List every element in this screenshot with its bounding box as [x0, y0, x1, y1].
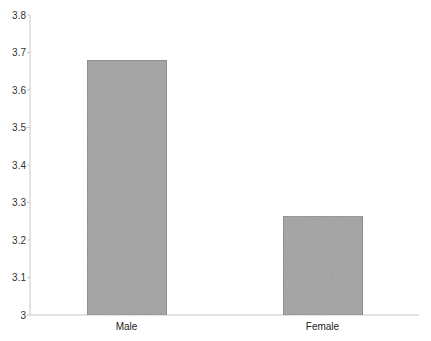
y-tick-label: 3.3	[12, 197, 26, 208]
y-axis: 33.13.23.33.43.53.63.73.8	[12, 10, 30, 321]
bar-female	[284, 216, 363, 315]
category-label-female: Female	[306, 321, 340, 332]
y-tick-label: 3.8	[12, 10, 26, 21]
bar-male	[88, 61, 167, 316]
y-tick-label: 3.1	[12, 272, 26, 283]
bar-chart: 33.13.23.33.43.53.63.73.8 MaleFemale	[0, 0, 431, 341]
category-label-male: Male	[116, 321, 138, 332]
category-labels: MaleFemale	[116, 321, 340, 332]
y-tick-label: 3.2	[12, 235, 26, 246]
y-tick-label: 3.6	[12, 85, 26, 96]
y-tick-label: 3.4	[12, 160, 26, 171]
y-tick-label: 3.5	[12, 122, 26, 133]
bars	[88, 61, 363, 316]
y-tick-label: 3	[20, 310, 26, 321]
y-tick-label: 3.7	[12, 47, 26, 58]
